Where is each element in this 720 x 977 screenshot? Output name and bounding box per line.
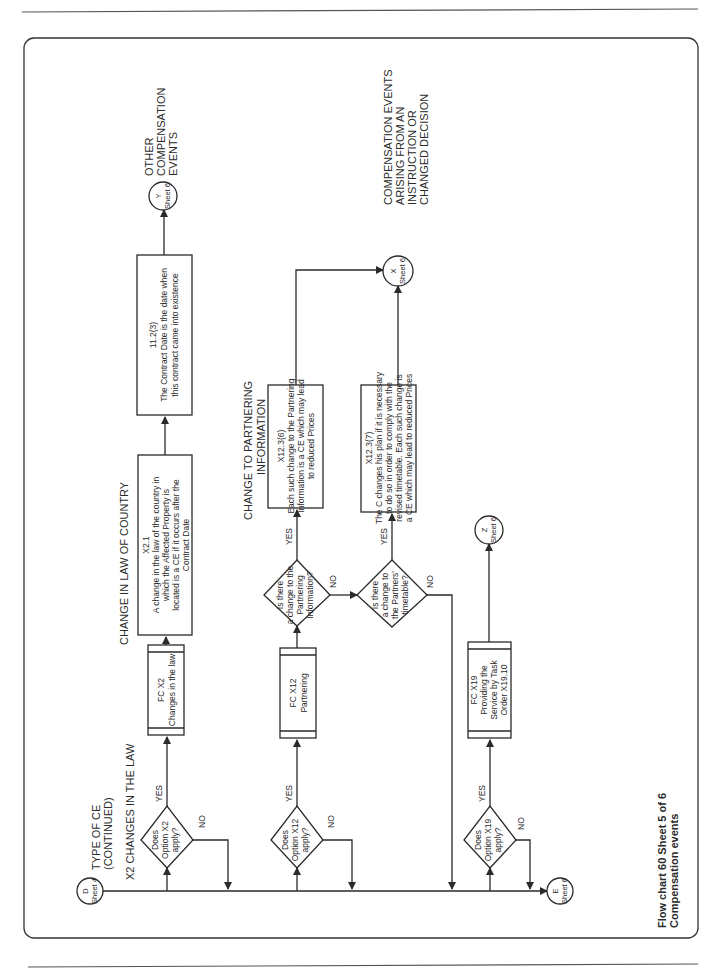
subprocess-text: Partnering bbox=[299, 673, 309, 712]
subprocess-text: Order X19.10 bbox=[499, 664, 509, 715]
connector-y-label: OTHER bbox=[143, 137, 155, 176]
bottom-rule bbox=[28, 964, 698, 967]
top-rule bbox=[22, 9, 698, 12]
heading-x2-changes-in-the-law: X2 CHANGES IN THE LAW bbox=[124, 743, 136, 880]
decision-text: timetable? bbox=[400, 575, 410, 614]
heading-type-of-ce: TYPE OF CE bbox=[90, 805, 102, 870]
decision-text: Option X2 bbox=[160, 821, 170, 859]
no-label: NO bbox=[328, 575, 338, 588]
x19-no-line bbox=[516, 840, 530, 889]
connector-y-letter: Y bbox=[154, 193, 163, 198]
subprocess-text: Service by Task bbox=[489, 660, 499, 720]
decision-partners-timetable[interactable]: Is there a change to the Partners' timet… bbox=[357, 560, 427, 627]
caption-subtitle: Compensation events bbox=[668, 814, 680, 928]
decision-option-x12[interactable]: Does Option X12 apply? bbox=[271, 806, 323, 868]
decision-text: apply? bbox=[170, 827, 180, 852]
process-text: a CE which may lead to reduced Prices bbox=[404, 374, 414, 522]
connector-d-sheet: Sheet 4 bbox=[90, 878, 99, 904]
connector-x-label: CHANGED DECISION bbox=[418, 94, 430, 205]
process-text: The Contract Date is the date when bbox=[159, 268, 169, 402]
decision-text: a change to the bbox=[285, 565, 295, 624]
decision-text: apply? bbox=[300, 827, 310, 852]
process-text: Contract Date bbox=[181, 519, 191, 572]
process-text: 11.2(3) bbox=[148, 322, 158, 348]
heading-change-to-partnering: CHANGE TO PARTNERING bbox=[242, 381, 254, 520]
decision-text: a change to bbox=[380, 573, 390, 618]
process-text: located is a CE if it occurs after the bbox=[171, 479, 181, 611]
decision-text: Is there bbox=[275, 581, 285, 610]
process-text: to reduced Prices bbox=[306, 413, 316, 479]
connector-x-sheet: Sheet 6 bbox=[398, 258, 407, 284]
connector-x-label: COMPENSATION EVENTS bbox=[382, 70, 394, 205]
process-11-2-3[interactable]: 11.2(3) The Contract Date is the date wh… bbox=[137, 255, 192, 415]
process-text: X2.1 bbox=[141, 536, 151, 554]
decision-text: Option X19 bbox=[483, 818, 493, 861]
process-text: X12.3(7) bbox=[364, 432, 374, 465]
no-label: NO bbox=[197, 815, 207, 828]
process-x12-3-7[interactable]: X12.3(7) The C changes his plan if it is… bbox=[361, 371, 416, 524]
decision-text: Does bbox=[280, 830, 290, 850]
decision-text: Is there bbox=[370, 581, 380, 610]
process-text: The C changes his plan if it is necessar… bbox=[374, 371, 384, 524]
subprocess-fc-x12[interactable]: FC X12 Partnering bbox=[280, 648, 316, 738]
connector-d[interactable]: D Sheet 4 bbox=[77, 878, 103, 904]
subprocess-text: FC X19 bbox=[469, 675, 479, 704]
connector-e-sheet: Sheet 6 bbox=[560, 878, 569, 904]
connector-y-sheet: Sheet 6 bbox=[163, 183, 172, 209]
flowchart-canvas: D Sheet 4 E Sheet 6 TYPE OF CE (CONTINUE… bbox=[0, 0, 720, 977]
subprocess-fc-x2[interactable]: FC X2 Changes in the law bbox=[148, 645, 184, 735]
decision-option-x2[interactable]: Does Option X2 apply? bbox=[141, 806, 193, 868]
timetable-no-line bbox=[427, 595, 452, 889]
heading-change-in-law-of-country: CHANGE IN LAW OF COUNTRY bbox=[118, 481, 130, 645]
connector-d-letter: D bbox=[81, 888, 90, 894]
yes-label: YES bbox=[284, 528, 294, 545]
process-text: revised timetable. Each such change is bbox=[394, 374, 404, 521]
process-x2-1[interactable]: X2.1 A change in the law of the country … bbox=[138, 455, 192, 635]
connector-y[interactable]: Y Sheet 6 bbox=[149, 182, 177, 210]
connector-z-sheet: Sheet 6 bbox=[489, 517, 498, 543]
decision-text: Does bbox=[473, 830, 483, 850]
connector-x[interactable]: X Sheet 6 bbox=[383, 256, 413, 286]
process-text: A change in the law of the country in bbox=[151, 476, 161, 613]
yes-label: YES bbox=[284, 785, 294, 802]
process-text: to do so in order to comply with the bbox=[384, 382, 394, 514]
decision-partnering-information[interactable]: Is there a change to the Partnering Info… bbox=[264, 560, 330, 626]
decision-text: apply? bbox=[493, 827, 503, 852]
connector-x-letter: X bbox=[389, 268, 398, 273]
heading-information: INFORMATION bbox=[255, 399, 267, 475]
subprocess-text: FC X12 bbox=[288, 678, 298, 707]
connector-z-letter: Z bbox=[480, 527, 489, 532]
process-text: X12.3(6) bbox=[276, 430, 286, 463]
heading-continued: (CONTINUED) bbox=[102, 797, 114, 870]
connector-x-label: INSTRUCTION OR bbox=[406, 110, 418, 205]
connector-e[interactable]: E Sheet 6 bbox=[547, 878, 573, 904]
yes-label: YES bbox=[477, 785, 487, 802]
connector-x-label: ARISING FROM AN bbox=[394, 107, 406, 205]
arrow-x12-3-6-to-x bbox=[296, 270, 383, 385]
subprocess-text: Providing the bbox=[479, 665, 489, 715]
decision-option-x19[interactable]: Does Option X19 apply? bbox=[464, 806, 516, 868]
decision-text: Does bbox=[150, 830, 160, 850]
decision-text: Information? bbox=[305, 571, 315, 619]
process-text: Information is a CE which may lead bbox=[296, 379, 306, 512]
connector-z[interactable]: Z Sheet 6 bbox=[475, 516, 503, 544]
decision-text: Partnering bbox=[295, 575, 305, 614]
decision-text: the Partners' bbox=[390, 571, 400, 619]
process-text: which the Affected Property is bbox=[161, 489, 171, 602]
process-x12-3-6[interactable]: X12.3(6) Each such change to the Partner… bbox=[268, 378, 323, 513]
no-label: NO bbox=[516, 817, 526, 830]
x2-no-line bbox=[193, 840, 228, 889]
connector-y-label: EVENTS bbox=[167, 132, 179, 176]
decision-text: Option X12 bbox=[290, 818, 300, 861]
no-label: NO bbox=[326, 815, 336, 828]
process-text: this contract came into existence bbox=[170, 273, 180, 397]
yes-label: YES bbox=[379, 528, 389, 545]
caption-title: Flow chart 60 Sheet 5 of 6 bbox=[656, 793, 668, 928]
connector-e-letter: E bbox=[551, 888, 560, 893]
connector-y-label: COMPENSATION bbox=[155, 88, 167, 176]
no-label: NO bbox=[425, 575, 435, 588]
yes-label: YES bbox=[154, 785, 164, 802]
subprocess-fc-x19[interactable]: FC X19 Providing the Service by Task Ord… bbox=[468, 642, 511, 738]
subprocess-text: Changes in the law bbox=[167, 653, 177, 726]
process-text: Each such change to the Partnering bbox=[286, 378, 296, 513]
